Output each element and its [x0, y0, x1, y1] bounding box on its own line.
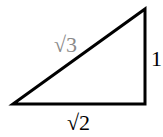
hypotenuse-label: √3: [54, 32, 77, 57]
right-triangle: [13, 9, 145, 104]
vertical-leg-label: 1: [151, 46, 162, 71]
triangle-diagram: √3 1 √2: [0, 0, 163, 137]
horizontal-leg-label: √2: [67, 110, 90, 135]
